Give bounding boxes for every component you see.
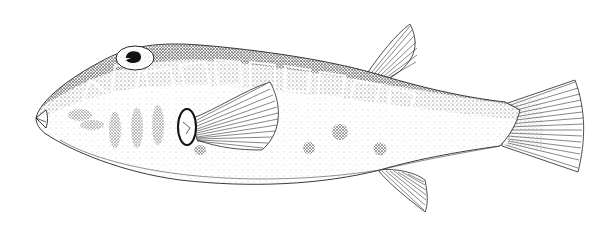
pufferfish-illustration (0, 0, 590, 233)
illustration-canvas: Pufferfish scientific illustration (0, 0, 590, 233)
fish-body (0, 40, 590, 190)
anal-fin (378, 169, 427, 212)
eye (116, 46, 154, 70)
dorsal-fin (368, 24, 417, 78)
